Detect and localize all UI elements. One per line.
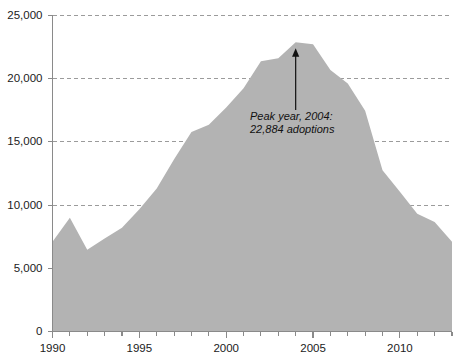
- area-series-adoptions: [53, 42, 453, 331]
- annotation-line-1: Peak year, 2004:: [250, 110, 333, 122]
- area-chart: 05,00010,00015,00020,00025,000 199019952…: [0, 0, 459, 363]
- x-tick-label: 1990: [40, 342, 66, 354]
- x-tick-label: 2010: [387, 342, 413, 354]
- y-tick-label: 0: [36, 325, 42, 337]
- y-axis-ticks: [48, 16, 53, 332]
- y-tick-label: 5,000: [14, 262, 43, 274]
- annotation-line-2: 22,884 adoptions: [249, 123, 335, 135]
- x-tick-label: 2000: [213, 342, 239, 354]
- x-axis-ticks: [53, 332, 453, 338]
- y-tick-label: 20,000: [7, 72, 42, 84]
- y-axis-tick-labels: 05,00010,00015,00020,00025,000: [7, 9, 42, 337]
- y-tick-label: 25,000: [7, 9, 42, 21]
- x-tick-label: 2005: [300, 342, 326, 354]
- y-tick-label: 15,000: [7, 135, 42, 147]
- x-tick-label: 1995: [127, 342, 153, 354]
- x-axis-tick-labels: 19901995200020052010: [40, 342, 413, 354]
- y-tick-label: 10,000: [7, 199, 42, 211]
- chart-canvas: 05,00010,00015,00020,00025,000 199019952…: [0, 0, 459, 363]
